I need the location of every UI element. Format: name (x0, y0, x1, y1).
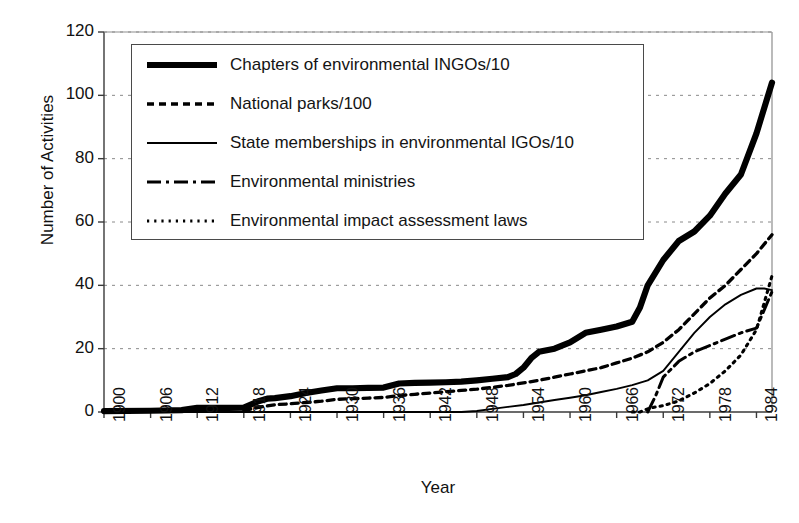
x-axis-tick-label: 1924 (297, 387, 315, 422)
series-line (632, 276, 772, 412)
y-axis-tick-label: 0 (48, 401, 94, 421)
chart-figure: Number of Activities Year 02040608010012… (0, 0, 799, 523)
x-axis-tick-label: 1978 (717, 387, 735, 422)
x-axis-tick-label: 1900 (111, 387, 129, 422)
y-axis-tick-label: 60 (48, 211, 94, 231)
x-axis-tick-label: 1930 (344, 387, 362, 422)
legend-item-label: National parks/100 (230, 94, 372, 114)
legend-line-sample-icon (146, 58, 218, 72)
x-axis-tick-label: 1972 (670, 387, 688, 422)
legend-line-sample-icon (146, 97, 218, 111)
x-axis-tick-label: 1966 (624, 387, 642, 422)
chart-legend: Chapters of environmental INGOs/10Nation… (131, 44, 644, 240)
legend-item-label: Environmental impact assessment laws (230, 211, 528, 231)
legend-item[interactable]: National parks/100 (132, 89, 643, 119)
y-axis-tick-label: 100 (48, 84, 94, 104)
series-line (244, 235, 772, 411)
y-axis-tick-label: 80 (48, 148, 94, 168)
x-axis-tick-label: 1984 (763, 387, 781, 422)
legend-line-sample-icon (146, 136, 218, 150)
legend-item[interactable]: Environmental ministries (132, 167, 643, 197)
x-axis-tick-label: 1906 (158, 387, 176, 422)
legend-line-sample-icon (146, 214, 218, 228)
x-axis-tick-label: 1936 (391, 387, 409, 422)
legend-item-label: Chapters of environmental INGOs/10 (230, 55, 510, 75)
y-axis-tick-label: 20 (48, 338, 94, 358)
x-axis-tick-label: 1942 (437, 387, 455, 422)
y-axis-tick-label: 40 (48, 274, 94, 294)
legend-item[interactable]: Environmental impact assessment laws (132, 206, 643, 236)
x-axis-tick-label: 1918 (251, 387, 269, 422)
legend-item[interactable]: Chapters of environmental INGOs/10 (132, 50, 643, 80)
legend-item[interactable]: State memberships in environmental IGOs/… (132, 128, 643, 158)
series-line (648, 292, 772, 412)
legend-item-label: State memberships in environmental IGOs/… (230, 133, 574, 153)
x-axis-tick-label: 1954 (530, 387, 548, 422)
legend-line-sample-icon (146, 175, 218, 189)
legend-item-label: Environmental ministries (230, 172, 415, 192)
x-axis-title: Year (104, 478, 772, 498)
x-axis-tick-label: 1948 (484, 387, 502, 422)
y-axis-tick-label: 120 (48, 21, 94, 41)
x-axis-tick-label: 1960 (577, 387, 595, 422)
x-axis-tick-label: 1912 (204, 387, 222, 422)
